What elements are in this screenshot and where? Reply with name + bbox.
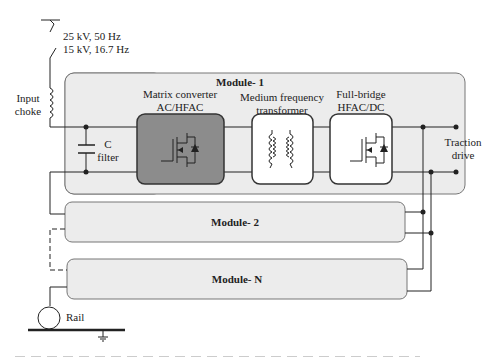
- full-bridge-label-1: Full-bridge: [326, 88, 396, 101]
- rail-label: Rail: [66, 311, 84, 324]
- transformer-label-2: transformer: [232, 104, 332, 117]
- input-choke-coil: [50, 88, 53, 118]
- source-voltage-label-2: 15 kV, 16.7 Hz: [63, 43, 129, 56]
- full-bridge-label-2: HFAC/DC: [326, 101, 396, 114]
- transformer-label-1: Medium frequency: [232, 91, 332, 104]
- input-choke-label-1: Input: [14, 92, 42, 105]
- traction-drive-label-1: Traction: [438, 136, 488, 149]
- c-filter-label-2: filter: [96, 151, 120, 164]
- c-filter-label-1: C: [96, 138, 120, 151]
- source-voltage-label-1: 25 kV, 50 Hz: [63, 30, 121, 43]
- rail-wheel-icon: [38, 307, 60, 329]
- transformer-block: [252, 114, 313, 184]
- module-2-title: Module- 2: [65, 216, 405, 229]
- pantograph-symbol: [50, 20, 54, 32]
- matrix-converter-label-2: AC/HFAC: [130, 101, 230, 114]
- matrix-converter-label-1: Matrix converter: [130, 88, 230, 101]
- input-choke-label-2: choke: [14, 105, 42, 118]
- module-n-title: Module- N: [67, 273, 407, 286]
- ground-icon: [98, 330, 108, 341]
- traction-drive-label-2: drive: [438, 149, 488, 162]
